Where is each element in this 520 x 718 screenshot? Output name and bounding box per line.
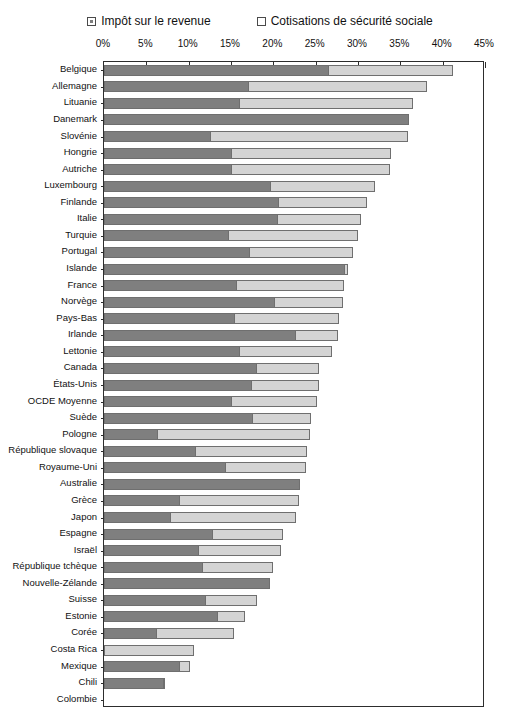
stacked-bar[interactable] [104,131,408,142]
stacked-bar[interactable] [104,446,307,457]
stacked-bar[interactable] [104,512,296,523]
bar-segment-social-security[interactable] [274,297,343,308]
stacked-bar[interactable] [104,197,367,208]
bar-segment-social-security[interactable] [163,678,165,689]
bar-segment-income-tax[interactable] [104,678,163,689]
stacked-bar[interactable] [104,247,353,258]
stacked-bar[interactable] [104,313,339,324]
bar-segment-social-security[interactable] [210,131,408,142]
stacked-bar[interactable] [104,462,306,473]
stacked-bar[interactable] [104,661,190,672]
bar-segment-income-tax[interactable] [104,462,225,473]
stacked-bar[interactable] [104,81,427,92]
bar-segment-social-security[interactable] [251,380,319,391]
bar-segment-social-security[interactable] [157,429,309,440]
stacked-bar[interactable] [104,413,311,424]
bar-segment-social-security[interactable] [198,545,281,556]
bar-segment-income-tax[interactable] [104,545,198,556]
stacked-bar[interactable] [104,595,257,606]
stacked-bar[interactable] [104,479,300,490]
bar-segment-income-tax[interactable] [104,214,277,225]
bar-segment-income-tax[interactable] [104,131,210,142]
stacked-bar[interactable] [104,214,361,225]
bar-segment-social-security[interactable] [256,363,319,374]
bar-segment-income-tax[interactable] [104,380,251,391]
stacked-bar[interactable] [104,495,299,506]
stacked-bar[interactable] [104,330,338,341]
bar-segment-income-tax[interactable] [104,495,179,506]
bar-segment-income-tax[interactable] [104,98,239,109]
stacked-bar[interactable] [104,297,343,308]
stacked-bar[interactable] [104,65,453,76]
bar-segment-income-tax[interactable] [104,230,228,241]
stacked-bar[interactable] [104,429,310,440]
bar-segment-social-security[interactable] [228,230,358,241]
bar-segment-social-security[interactable] [231,164,390,175]
bar-segment-income-tax[interactable] [104,562,202,573]
bar-segment-social-security[interactable] [252,413,311,424]
stacked-bar[interactable] [104,529,283,540]
bar-segment-income-tax[interactable] [104,595,205,606]
stacked-bar[interactable] [104,396,317,407]
bar-segment-income-tax[interactable] [104,114,409,125]
bar-segment-social-security[interactable] [277,214,362,225]
bar-segment-income-tax[interactable] [104,330,295,341]
bar-segment-income-tax[interactable] [104,529,212,540]
stacked-bar[interactable] [104,380,319,391]
stacked-bar[interactable] [104,611,245,622]
bar-segment-income-tax[interactable] [104,247,249,258]
bar-segment-income-tax[interactable] [104,479,300,490]
bar-segment-income-tax[interactable] [104,313,234,324]
bar-segment-income-tax[interactable] [104,280,236,291]
bar-segment-social-security[interactable] [239,98,413,109]
bar-segment-social-security[interactable] [278,197,368,208]
stacked-bar[interactable] [104,98,413,109]
bar-segment-income-tax[interactable] [104,148,231,159]
bar-segment-income-tax[interactable] [104,264,344,275]
stacked-bar[interactable] [104,230,358,241]
bar-segment-income-tax[interactable] [104,413,252,424]
bar-segment-social-security[interactable] [104,645,194,656]
bar-segment-income-tax[interactable] [104,628,156,639]
bar-segment-social-security[interactable] [179,661,190,672]
bar-segment-social-security[interactable] [205,595,257,606]
stacked-bar[interactable] [104,678,165,689]
bar-segment-income-tax[interactable] [104,512,170,523]
bar-segment-social-security[interactable] [295,330,337,341]
bar-segment-social-security[interactable] [156,628,234,639]
bar-segment-social-security[interactable] [179,495,298,506]
stacked-bar[interactable] [104,545,281,556]
stacked-bar[interactable] [104,114,409,125]
bar-segment-income-tax[interactable] [104,661,179,672]
bar-segment-social-security[interactable] [217,611,244,622]
stacked-bar[interactable] [104,280,344,291]
bar-segment-social-security[interactable] [328,65,452,76]
stacked-bar[interactable] [104,346,332,357]
bar-segment-social-security[interactable] [248,81,427,92]
bar-segment-social-security[interactable] [344,264,347,275]
bar-segment-social-security[interactable] [236,280,344,291]
bar-segment-income-tax[interactable] [104,181,270,192]
bar-segment-social-security[interactable] [225,462,306,473]
stacked-bar[interactable] [104,628,234,639]
bar-segment-income-tax[interactable] [104,429,157,440]
bar-segment-social-security[interactable] [231,396,317,407]
bar-segment-social-security[interactable] [231,148,391,159]
stacked-bar[interactable] [104,645,194,656]
bar-segment-income-tax[interactable] [104,164,231,175]
bar-segment-income-tax[interactable] [104,197,278,208]
stacked-bar[interactable] [104,562,273,573]
bar-segment-social-security[interactable] [249,247,353,258]
bar-segment-income-tax[interactable] [104,578,270,589]
bar-segment-social-security[interactable] [234,313,338,324]
bar-segment-social-security[interactable] [212,529,283,540]
stacked-bar[interactable] [104,181,375,192]
bar-segment-social-security[interactable] [270,181,375,192]
stacked-bar[interactable] [104,148,391,159]
bar-segment-income-tax[interactable] [104,396,231,407]
stacked-bar[interactable] [104,363,319,374]
bar-segment-income-tax[interactable] [104,446,195,457]
bar-segment-social-security[interactable] [202,562,273,573]
bar-segment-income-tax[interactable] [104,611,217,622]
stacked-bar[interactable] [104,578,270,589]
